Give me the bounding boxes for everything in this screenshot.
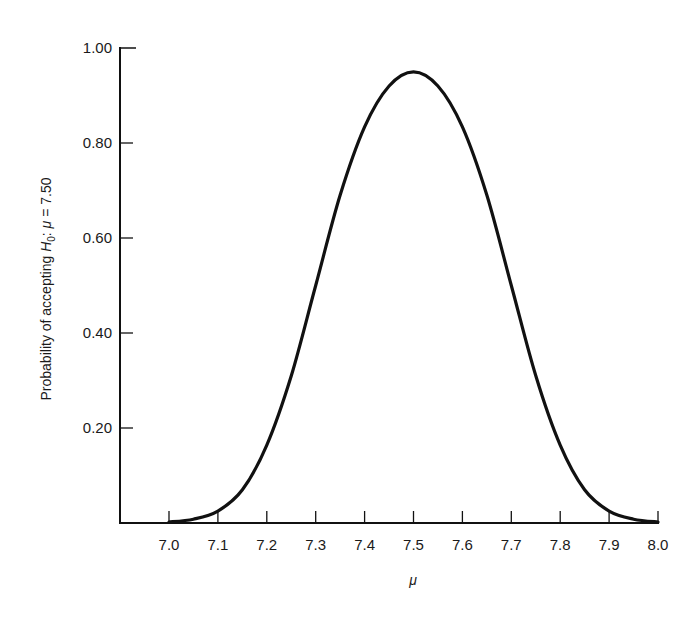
oc-curve-line (169, 72, 658, 522)
y-tick-label: 0.80 (83, 134, 112, 151)
x-tick-label: 7.7 (501, 536, 522, 553)
x-tick-label: 7.2 (256, 536, 277, 553)
x-tick-label: 7.9 (599, 536, 620, 553)
y-tick-label: 0.20 (83, 419, 112, 436)
x-tick-label: 7.3 (305, 536, 326, 553)
y-tick-label: 0.60 (83, 229, 112, 246)
x-axis-title: μ (408, 572, 417, 588)
x-tick-label: 7.1 (207, 536, 228, 553)
y-tick-label: 0.40 (83, 324, 112, 341)
y-ticks: 0.200.400.600.801.00 (83, 39, 133, 436)
x-ticks: 7.07.17.27.37.47.57.67.77.87.98.0 (159, 511, 669, 553)
oc-curve-chart: 0.200.400.600.801.00 7.07.17.27.37.47.57… (0, 0, 695, 621)
x-tick-label: 7.0 (159, 536, 180, 553)
x-tick-label: 7.4 (354, 536, 375, 553)
y-axis-title-mu: μ (38, 220, 54, 229)
x-tick-label: 7.5 (403, 536, 424, 553)
y-axis-title: Probability of accepting H0: μ = 7.50 (38, 177, 57, 400)
x-tick-label: 8.0 (648, 536, 669, 553)
x-tick-label: 7.6 (452, 536, 473, 553)
y-tick-label: 1.00 (83, 39, 112, 56)
y-axis-title-suffix: = 7.50 (38, 177, 54, 220)
y-axis-title-prefix: Probability of accepting (38, 252, 54, 401)
x-tick-label: 7.8 (550, 536, 571, 553)
y-axis: 0.200.400.600.801.00 (83, 39, 136, 524)
y-axis-title-colon: : (38, 228, 54, 236)
